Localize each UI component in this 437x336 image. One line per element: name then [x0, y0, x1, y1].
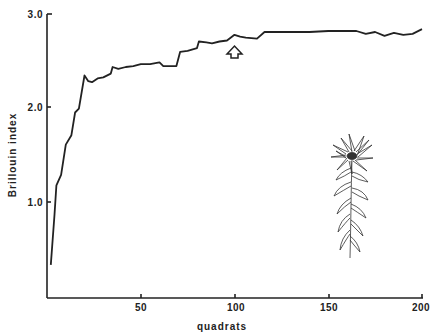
x-tick-150: 150	[320, 302, 338, 313]
y-axis-title: Brillouin index	[7, 113, 18, 197]
flower-illustration-icon	[331, 134, 373, 258]
y-tick-labels: 3.0 2.0 1.0	[28, 9, 43, 208]
brillouin-index-chart: 3.0 2.0 1.0 50 100 150 200 quadrats Bril…	[0, 0, 437, 336]
x-tick-200: 200	[412, 302, 430, 313]
x-tick-labels: 50 100 150 200	[135, 302, 430, 313]
up-arrow-marker	[227, 46, 242, 58]
y-tick-3: 3.0	[28, 9, 43, 20]
x-tick-50: 50	[135, 302, 147, 313]
x-tick-100: 100	[227, 302, 245, 313]
x-axis-title: quadrats	[197, 321, 247, 332]
y-tick-2: 2.0	[28, 102, 43, 113]
y-tick-1: 1.0	[28, 197, 43, 208]
brillouin-curve	[51, 29, 422, 265]
